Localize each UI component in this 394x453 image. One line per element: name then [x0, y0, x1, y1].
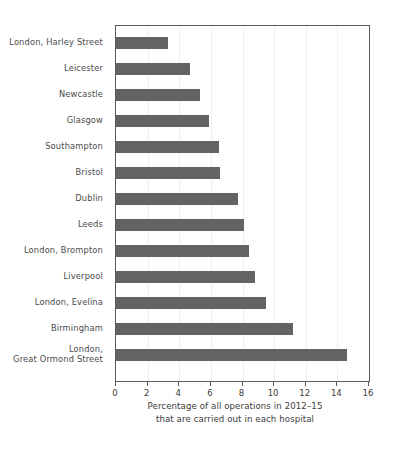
bar: [116, 271, 255, 283]
bar: [116, 141, 219, 153]
bar: [116, 245, 249, 257]
x-tick-label: 8: [230, 388, 254, 398]
x-tick-label: 14: [324, 388, 348, 398]
x-tick: [242, 381, 243, 386]
bar: [116, 167, 220, 179]
plot-area: [115, 25, 370, 382]
x-tick: [368, 381, 369, 386]
category-label: Birmingham: [51, 323, 103, 333]
x-axis-title: Percentage of all operations in 2012–15 …: [80, 400, 390, 426]
x-tick: [178, 381, 179, 386]
x-tick-label: 12: [293, 388, 317, 398]
bar: [116, 349, 347, 361]
x-tick-label: 2: [135, 388, 159, 398]
category-label: London, Brompton: [24, 245, 103, 255]
x-tick: [336, 381, 337, 386]
x-tick: [273, 381, 274, 386]
category-label: Dublin: [75, 193, 103, 203]
bar: [116, 115, 209, 127]
x-tick: [115, 381, 116, 386]
category-label: Liverpool: [64, 271, 103, 281]
x-tick-label: 0: [103, 388, 127, 398]
bar-series: [116, 26, 369, 381]
bar-chart: London, Harley StreetLeicesterNewcastleG…: [0, 0, 394, 453]
x-tick: [147, 381, 148, 386]
category-label: London, Evelina: [35, 297, 103, 307]
category-label: Leeds: [78, 219, 103, 229]
x-tick-label: 6: [198, 388, 222, 398]
bar: [116, 323, 293, 335]
category-label: Leicester: [64, 63, 103, 73]
bar: [116, 219, 244, 231]
bar: [116, 297, 266, 309]
bar: [116, 37, 168, 49]
x-tick-label: 16: [356, 388, 380, 398]
category-label: London, Great Ormond Street: [13, 344, 103, 364]
x-tick-label: 10: [261, 388, 285, 398]
category-axis-labels: London, Harley StreetLeicesterNewcastleG…: [0, 25, 110, 380]
category-label: Bristol: [76, 167, 103, 177]
category-label: Southampton: [45, 141, 103, 151]
category-label: London, Harley Street: [9, 37, 103, 47]
x-axis-title-line-1: Percentage of all operations in 2012–15: [80, 400, 390, 413]
x-axis-title-line-2: that are carried out in each hospital: [80, 413, 390, 426]
bar: [116, 63, 190, 75]
x-tick: [210, 381, 211, 386]
category-label: Newcastle: [59, 89, 103, 99]
category-label: Glasgow: [67, 115, 103, 125]
x-tick-label: 4: [166, 388, 190, 398]
bar: [116, 89, 200, 101]
bar: [116, 193, 238, 205]
x-tick: [305, 381, 306, 386]
